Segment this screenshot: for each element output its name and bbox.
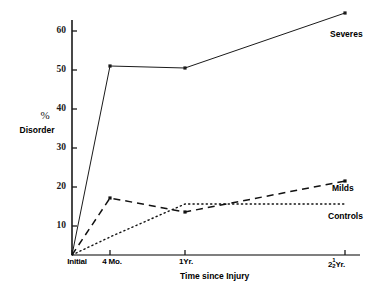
y-tick-label-10: 10 (40, 221, 66, 231)
series-markers-severes (108, 11, 346, 69)
x-tick-label-1yr: 1Yr. (172, 258, 200, 266)
x-tick-label-2halfyr-suffix: Yr. (335, 260, 345, 269)
y-tick-label-20: 20 (40, 182, 66, 192)
y-axis-title-percent: % (28, 110, 62, 121)
x-tick-label-4mo: 4 Mo. (95, 258, 129, 266)
series-line-milds (72, 181, 345, 255)
x-tick-label-2halfyr: 212Yr. (328, 257, 370, 269)
y-axis-title-disorder: Disorder (8, 126, 66, 135)
series-line-severes (72, 13, 345, 255)
series-markers-milds (108, 179, 346, 213)
y-tick-label-50: 50 (40, 65, 66, 75)
y-tick-label-60: 60 (40, 26, 66, 36)
series-line-controls (72, 204, 345, 255)
series-label-controls: Controls (328, 212, 363, 221)
x-axis-title: Time since Injury (180, 272, 290, 281)
chart-figure: 60 50 40 30 20 10 % Disorder Initial 4 M… (0, 0, 376, 303)
series-label-milds: Milds (332, 184, 354, 193)
x-tick-marks (72, 250, 345, 255)
y-tick-label-30: 30 (40, 143, 66, 153)
series-label-severes: Severes (330, 30, 363, 39)
x-tick-label-initial: Initial (60, 258, 94, 266)
